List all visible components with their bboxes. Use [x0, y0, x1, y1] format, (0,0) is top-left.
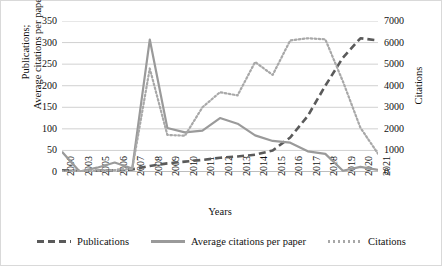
plot-area	[62, 21, 378, 172]
y-axis-left-tick-label: 350	[23, 16, 57, 26]
y-axis-left-tick-label: 200	[23, 81, 57, 91]
series-line-citations	[62, 38, 378, 171]
y-axis-left-tick-label: 0	[23, 167, 57, 177]
legend-label: Citations	[368, 236, 406, 247]
chart-figure: Publications; Average citations per pape…	[0, 0, 443, 267]
y-axis-left-tick-label: 50	[23, 145, 57, 155]
y-axis-left-tick-label: 300	[23, 38, 57, 48]
legend-item-average-citations-per-paper[interactable]: Average citations per paper	[151, 236, 306, 247]
y-axis-left-tick-label: 100	[23, 124, 57, 134]
series-line-publications	[62, 38, 378, 171]
series-line-average-citations-per-paper	[62, 40, 378, 172]
y-axis-right-tick-label: 6000	[384, 38, 424, 48]
plot-svg	[62, 21, 378, 172]
y-axis-right-tick-label: 1000	[384, 145, 424, 155]
legend-swatch-average-citations-per-paper-icon	[151, 240, 185, 243]
legend-swatch-citations-icon	[328, 240, 362, 243]
y-axis-right-tick-label: 2000	[384, 124, 424, 134]
y-axis-right-tick-label: 4000	[384, 81, 424, 91]
x-axis-title: Years	[60, 206, 380, 217]
legend-label: Publications	[77, 236, 129, 247]
legend-item-publications[interactable]: Publications	[37, 236, 129, 247]
x-axis-tick-label: 2021	[382, 156, 392, 176]
chart-legend: PublicationsAverage citations per paperC…	[0, 236, 443, 247]
y-axis-left-tick-label: 150	[23, 102, 57, 112]
y-axis-right-tick-label: 3000	[384, 102, 424, 112]
y-axis-right-tick-label: 7000	[384, 16, 424, 26]
legend-item-citations[interactable]: Citations	[328, 236, 406, 247]
y-axis-right-tick-label: 5000	[384, 59, 424, 69]
y-axis-left-tick-label: 250	[23, 59, 57, 69]
legend-swatch-publications-icon	[37, 240, 71, 243]
legend-label: Average citations per paper	[191, 236, 306, 247]
